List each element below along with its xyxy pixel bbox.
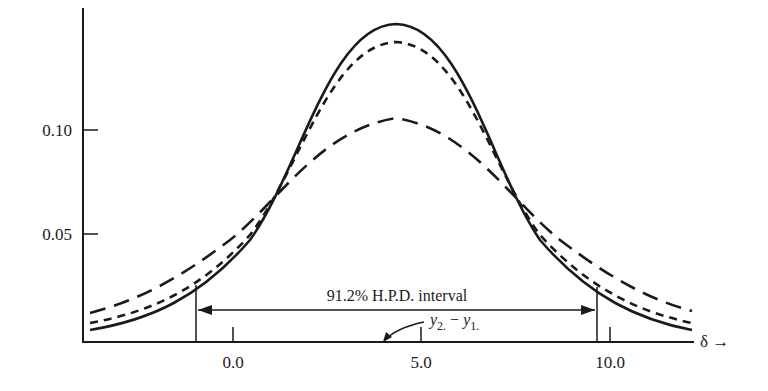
curve-solid: [90, 24, 692, 330]
ydiff-pointer: [384, 322, 424, 341]
hpd-arrow-right-icon: [581, 305, 595, 315]
y-tick-label-010: 0.10: [42, 121, 72, 140]
x-tick-label-10: 10.0: [595, 353, 625, 372]
chart-canvas: 0.10 0.05 0.0 5.0 10.0 δ → 91.2% H.P.D. …: [0, 0, 768, 391]
curve-long-dashed: [90, 118, 692, 313]
hpd-label: 91.2% H.P.D. interval: [327, 287, 468, 304]
curve-short-dashed: [90, 42, 692, 323]
hpd-arrow-left-icon: [198, 305, 212, 315]
x-tick-label-0: 0.0: [222, 353, 243, 372]
ydiff-label: y2. − y1.: [428, 311, 479, 333]
y-tick-label-005: 0.05: [42, 225, 72, 244]
ydiff-arrow-icon: [383, 332, 392, 342]
x-axis-label: δ →: [700, 332, 729, 351]
x-tick-label-5: 5.0: [410, 353, 431, 372]
